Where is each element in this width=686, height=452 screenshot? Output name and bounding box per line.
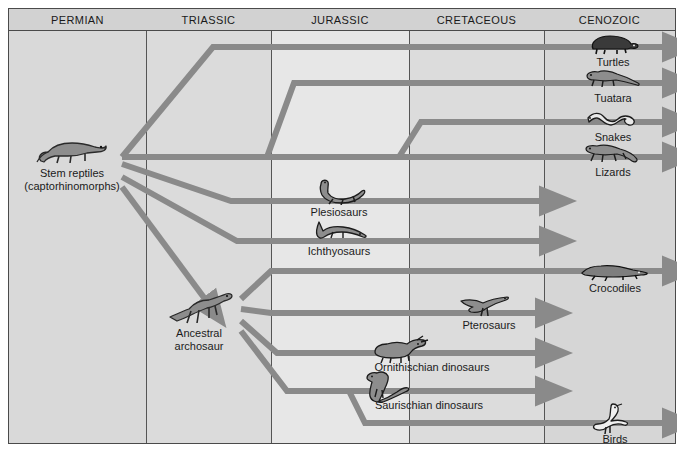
- taxon-label-lizards: Lizards: [557, 166, 669, 179]
- taxon-label-pterosaurs: Pterosaurs: [441, 319, 537, 332]
- stem-reptile-icon: [35, 135, 109, 169]
- plesiosaur-icon: [309, 177, 367, 209]
- taxon-label-birds: Birds: [569, 433, 661, 446]
- lizard-icon: [581, 141, 643, 169]
- branch-to-archosaur: [122, 187, 205, 299]
- taxon-label-tuatara: Tuatara: [557, 92, 669, 105]
- ancestral-line2: archosaur: [175, 340, 224, 352]
- tuatara-icon: [581, 67, 643, 93]
- stem-reptiles-line2: (captorhinomorphs): [24, 180, 119, 192]
- snake-icon: [585, 107, 641, 133]
- turtle-icon: [583, 31, 641, 59]
- taxon-label-stem-reptiles: Stem reptiles (captorhinomorphs): [9, 167, 135, 192]
- stem-reptiles-line1: Stem reptiles: [40, 167, 104, 179]
- taxon-label-crocodiles: Crocodiles: [557, 282, 673, 295]
- diagram-frame: PERMIAN TRIASSIC JURASSIC CRETACEOUS CEN…: [8, 8, 676, 444]
- taxon-label-ancestral-archosaur: Ancestral archosaur: [137, 327, 261, 352]
- taxon-label-saurischian: Saurischian dinosaurs: [344, 399, 514, 412]
- diagram-canvas: PERMIAN TRIASSIC JURASSIC CRETACEOUS CEN…: [0, 0, 686, 452]
- ichthyosaur-icon: [311, 218, 369, 246]
- taxon-label-plesiosaurs: Plesiosaurs: [291, 206, 387, 219]
- taxon-label-ichthyosaurs: Ichthyosaurs: [289, 245, 389, 258]
- ancestral-line1: Ancestral: [176, 327, 222, 339]
- archosaur-icon: [167, 287, 235, 329]
